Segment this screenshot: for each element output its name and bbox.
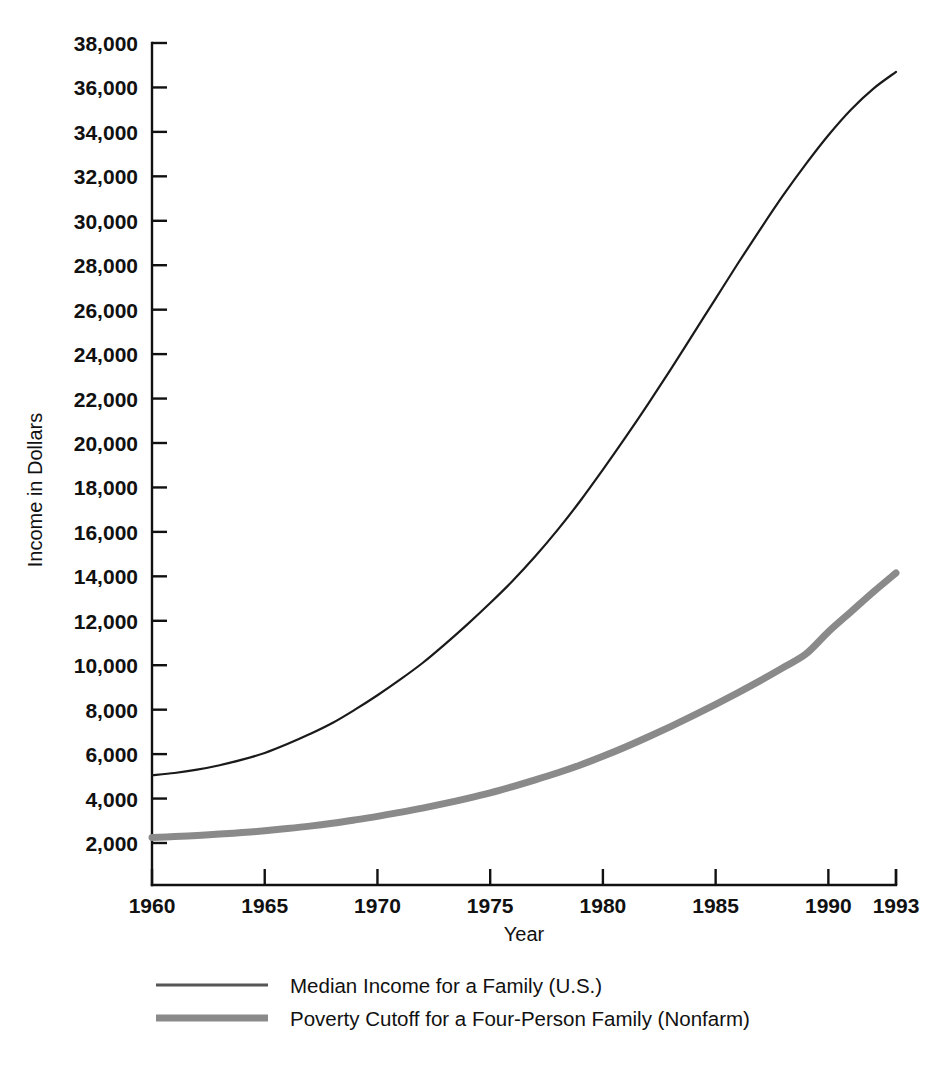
y-axis-tick-label: 24,000 [74, 343, 138, 366]
x-axis-tick-label: 1990 [805, 894, 852, 917]
y-axis-tick-label: 14,000 [74, 565, 138, 588]
x-axis-tick-label: 1960 [129, 894, 176, 917]
y-axis-tick-label: 16,000 [74, 521, 138, 544]
y-axis-tick-label: 36,000 [74, 76, 138, 99]
y-axis-tick-label: 32,000 [74, 165, 138, 188]
x-axis-tick-label: 1993 [873, 894, 920, 917]
y-axis-tick-label: 34,000 [74, 121, 138, 144]
y-axis-tick-label: 10,000 [74, 654, 138, 677]
chart-legend: Median Income for a Family (U.S.)Poverty… [156, 974, 750, 1030]
y-axis-tick-label: 20,000 [74, 432, 138, 455]
y-axis-tick-label: 26,000 [74, 299, 138, 322]
y-axis-title: Income in Dollars [24, 413, 46, 568]
y-axis-tick-label: 4,000 [85, 788, 138, 811]
y-axis-tick-label: 38,000 [74, 32, 138, 55]
x-axis-tick-label: 1970 [354, 894, 401, 917]
income-poverty-line-chart: 2,0004,0006,0008,00010,00012,00014,00016… [0, 0, 950, 1080]
y-axis-tick-label: 2,000 [85, 832, 138, 855]
y-axis-tick-label: 18,000 [74, 476, 138, 499]
y-axis-tick-label: 30,000 [74, 210, 138, 233]
series-line-2 [152, 573, 896, 837]
x-axis-tick-label: 1985 [692, 894, 739, 917]
x-axis-tick-group: 19601965197019751980198519901993 [129, 869, 920, 917]
legend-label-2: Poverty Cutoff for a Four-Person Family … [290, 1007, 750, 1030]
chart-canvas: 2,0004,0006,0008,00010,00012,00014,00016… [0, 0, 950, 1080]
y-axis-tick-label: 12,000 [74, 610, 138, 633]
x-axis-title: Year [504, 923, 545, 945]
x-axis-tick-label: 1975 [467, 894, 514, 917]
y-axis-tick-label: 22,000 [74, 388, 138, 411]
y-axis-tick-label: 28,000 [74, 254, 138, 277]
chart-series-group [152, 72, 896, 838]
x-axis-tick-label: 1965 [241, 894, 288, 917]
x-axis-tick-label: 1980 [580, 894, 627, 917]
y-axis-tick-label: 6,000 [85, 743, 138, 766]
chart-axes [152, 43, 896, 885]
legend-label-1: Median Income for a Family (U.S.) [290, 974, 602, 997]
y-axis-tick-label: 8,000 [85, 699, 138, 722]
